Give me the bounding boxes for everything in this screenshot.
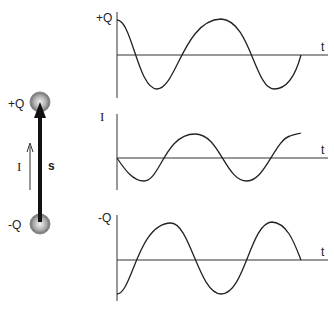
dipole-diagram: +Q -Q I s +Q t I t -Q t (0, 0, 334, 309)
waveform (117, 19, 301, 89)
y-axis-label: -Q (98, 211, 111, 225)
graph-top-charge: +Q t (96, 11, 328, 98)
y-axis-label: +Q (96, 11, 112, 25)
x-axis-label: t (321, 143, 325, 157)
y-axis-label: I (100, 109, 104, 124)
bottom-charge-label: -Q (8, 218, 21, 232)
x-axis-label: t (321, 245, 325, 259)
separation-label: s (48, 159, 55, 173)
graph-bottom-charge: -Q t (98, 211, 328, 301)
waveform (117, 133, 301, 181)
waveform (117, 222, 301, 294)
current-label: I (17, 159, 21, 174)
graph-current: I t (100, 109, 328, 190)
dipole: +Q -Q I s (8, 92, 55, 234)
top-charge-label: +Q (8, 97, 24, 111)
x-axis-label: t (321, 40, 325, 54)
